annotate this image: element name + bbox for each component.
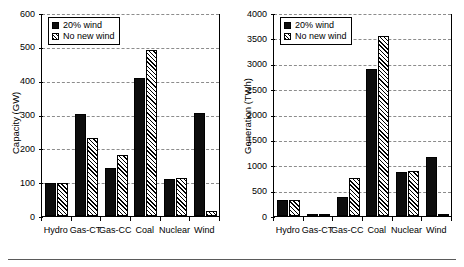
y-axis-tick (271, 65, 275, 66)
y-axis-tick (271, 90, 275, 91)
x-axis-tick (362, 217, 363, 221)
legend-label: 20% wind (295, 21, 334, 30)
bar (349, 178, 360, 216)
bar (307, 214, 318, 216)
bar (75, 114, 86, 217)
legend-swatch-hatch-icon (284, 33, 291, 40)
legend-item-nonew: No new wind (52, 31, 115, 42)
y-axis-tick (271, 14, 275, 15)
gridline (274, 192, 451, 193)
y-axis-tick-label: 400 (0, 77, 35, 86)
y-axis-tick-label: 500 (0, 43, 35, 52)
legend-swatch-solid-icon (284, 22, 291, 29)
footer-divider (8, 259, 456, 260)
bar (426, 157, 437, 216)
x-axis-tick (392, 217, 393, 221)
y-axis-tick (271, 39, 275, 40)
plot-frame-right-edge (451, 14, 452, 217)
chart-panel-capacity: 0100200300400500600Capacity (GW)HydroGas… (0, 0, 232, 245)
y-axis-tick (39, 82, 43, 83)
chart-panel-generation: 05001000150020002500300035004000Generati… (232, 0, 464, 245)
x-axis-tick (303, 217, 304, 221)
bar (176, 178, 187, 216)
x-axis-tick (41, 217, 42, 221)
legend-label: 20% wind (63, 21, 102, 30)
bar (164, 179, 175, 216)
chart-legend: 20% windNo new wind (48, 17, 120, 45)
x-axis-tick (421, 217, 422, 221)
y-axis-tick (39, 149, 43, 150)
legend-swatch-solid-icon (52, 22, 59, 29)
bar (87, 138, 98, 216)
gridline (42, 116, 219, 117)
bar (319, 214, 330, 216)
legend-label: No new wind (63, 32, 115, 41)
gridline (274, 116, 451, 117)
gridline (274, 65, 451, 66)
y-axis-tick-label: 600 (0, 10, 35, 19)
x-axis-category-label: Wind (183, 225, 225, 235)
x-axis-category-label: Wind (415, 225, 457, 235)
y-axis-tick (39, 48, 43, 49)
gridline (274, 90, 451, 91)
bar (366, 69, 377, 216)
gridline (274, 166, 451, 167)
bar (277, 200, 288, 216)
bar (206, 211, 217, 216)
bar (438, 214, 449, 216)
y-axis-tick-label: 0 (232, 213, 267, 222)
gridline (42, 82, 219, 83)
bar (45, 183, 56, 216)
bar (146, 50, 157, 216)
x-axis-tick (332, 217, 333, 221)
y-axis-tick (39, 14, 43, 15)
x-axis-tick (189, 217, 190, 221)
y-axis-tick-label: 3000 (232, 60, 267, 69)
y-axis-tick-label: 500 (232, 187, 267, 196)
bar (194, 113, 205, 216)
y-axis-title: Capacity (GW) (10, 91, 21, 153)
chart-legend: 20% windNo new wind (280, 17, 352, 45)
bar (57, 183, 68, 216)
y-axis-tick-label: 100 (0, 179, 35, 188)
bar (396, 172, 407, 216)
bar (117, 155, 128, 216)
bar (289, 200, 300, 216)
y-axis-tick-label: 3500 (232, 35, 267, 44)
x-axis-tick (100, 217, 101, 221)
y-axis-tick (39, 116, 43, 117)
y-axis-tick-label: 1000 (232, 162, 267, 171)
gridline (274, 14, 451, 15)
y-axis-tick (39, 183, 43, 184)
y-axis-tick (271, 141, 275, 142)
y-axis-tick-label: 4000 (232, 10, 267, 19)
bar (134, 78, 145, 216)
bar (105, 168, 116, 216)
y-axis-tick (271, 192, 275, 193)
x-axis-tick (273, 217, 274, 221)
legend-item-wind20: 20% wind (284, 20, 347, 31)
x-axis-tick (130, 217, 131, 221)
legend-label: No new wind (295, 32, 347, 41)
x-axis-tick (71, 217, 72, 221)
gridline (42, 14, 219, 15)
y-axis-title: Generation (TWh) (242, 77, 253, 153)
gridline (42, 48, 219, 49)
gridline (42, 183, 219, 184)
legend-item-wind20: 20% wind (52, 20, 115, 31)
x-axis-tick (451, 217, 452, 221)
legend-swatch-hatch-icon (52, 33, 59, 40)
y-axis-tick (271, 116, 275, 117)
legend-item-nonew: No new wind (284, 31, 347, 42)
bar (337, 197, 348, 216)
bar (408, 171, 419, 216)
plot-frame-right-edge (219, 14, 220, 217)
gridline (42, 149, 219, 150)
x-axis-tick (219, 217, 220, 221)
y-axis-tick-label: 0 (0, 213, 35, 222)
gridline (274, 141, 451, 142)
y-axis-tick (271, 166, 275, 167)
x-axis-tick (160, 217, 161, 221)
figure-two-panel-bar-charts: 0100200300400500600Capacity (GW)HydroGas… (0, 0, 464, 267)
bar (378, 36, 389, 216)
